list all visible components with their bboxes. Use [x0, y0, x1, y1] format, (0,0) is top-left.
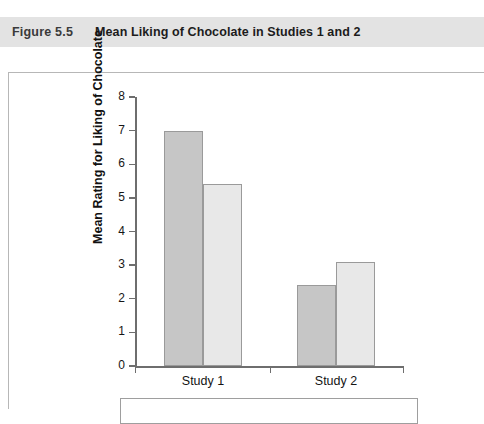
y-axis-tick-label: 4	[103, 224, 125, 238]
y-axis-tick	[129, 164, 135, 165]
x-axis-label: Study 2	[315, 374, 357, 388]
y-axis-tick-label: 0	[103, 358, 125, 372]
y-axis-tick	[129, 130, 135, 131]
bar	[336, 262, 375, 366]
y-axis-tick-label: 5	[103, 190, 125, 204]
y-axis-line	[135, 97, 137, 367]
y-axis-tick	[129, 298, 135, 299]
x-axis-label: Study 1	[182, 374, 224, 388]
y-axis-tick-label: 2	[103, 291, 125, 305]
y-axis-tick	[129, 197, 135, 198]
y-axis-tick-label: 7	[103, 123, 125, 137]
y-axis-tick	[129, 264, 135, 265]
y-axis-tick-label: 8	[103, 89, 125, 103]
y-axis-tick	[129, 231, 135, 232]
y-axis-tick	[129, 96, 135, 97]
bar	[297, 285, 336, 366]
x-axis-tick	[403, 366, 404, 373]
legend-box	[120, 398, 418, 424]
y-axis-tick-label: 6	[103, 156, 125, 170]
y-axis-tick-label: 1	[103, 324, 125, 338]
y-axis-title: Mean Rating for Liking of Chocolate	[91, 27, 105, 247]
x-axis-tick	[135, 366, 136, 373]
bar	[164, 131, 203, 366]
y-axis-tick	[129, 332, 135, 333]
y-axis-tick-label: 3	[103, 257, 125, 271]
bar	[203, 184, 242, 366]
x-axis-tick	[270, 366, 271, 373]
